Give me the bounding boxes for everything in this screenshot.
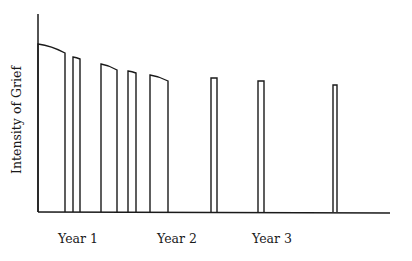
grief-episode-bar	[101, 64, 117, 212]
grief-episode-bar	[211, 78, 217, 212]
grief-episode-bar	[73, 57, 80, 212]
grief-intensity-chart	[0, 0, 412, 261]
x-tick-label: Year 3	[252, 231, 292, 246]
x-tick-label: Year 2	[157, 231, 197, 246]
grief-episode-bar	[258, 81, 264, 212]
grief-episode-bars	[38, 44, 337, 212]
y-axis-label: Intensity of Grief	[9, 66, 24, 174]
x-axis	[38, 212, 390, 213]
grief-episode-bar	[150, 75, 168, 212]
grief-episode-bar	[38, 44, 65, 212]
x-tick-label: Year 1	[58, 231, 98, 246]
grief-episode-bar	[333, 85, 337, 212]
grief-episode-bar	[128, 71, 136, 212]
